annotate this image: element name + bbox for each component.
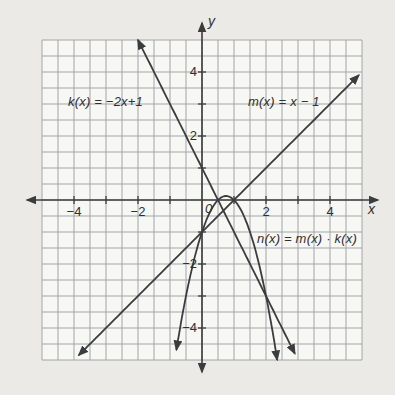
x-axis-letter: x: [368, 201, 375, 217]
y-axis-letter: y: [208, 13, 215, 29]
y-tick-label--4: −4: [163, 320, 197, 335]
x-tick-label--4: −4: [59, 204, 89, 219]
y-tick-label-2: 2: [163, 128, 197, 143]
origin-label: 0: [205, 201, 212, 216]
x-tick-label-4: 4: [315, 204, 345, 219]
graph-stage: k(x) = −2x+1 m(x) = x − 1 n(x) = m(x) · …: [0, 0, 395, 395]
label-function-k: k(x) = −2x+1: [68, 94, 143, 109]
label-function-m: m(x) = x − 1: [248, 94, 320, 109]
x-tick-label--2: −2: [123, 204, 153, 219]
x-tick-label-2: 2: [251, 204, 281, 219]
y-tick-label-4: 4: [163, 64, 197, 79]
y-tick-label--2: −2: [163, 256, 197, 271]
label-function-n: n(x) = m(x) · k(x): [257, 231, 357, 246]
graph-canvas: [0, 0, 395, 395]
